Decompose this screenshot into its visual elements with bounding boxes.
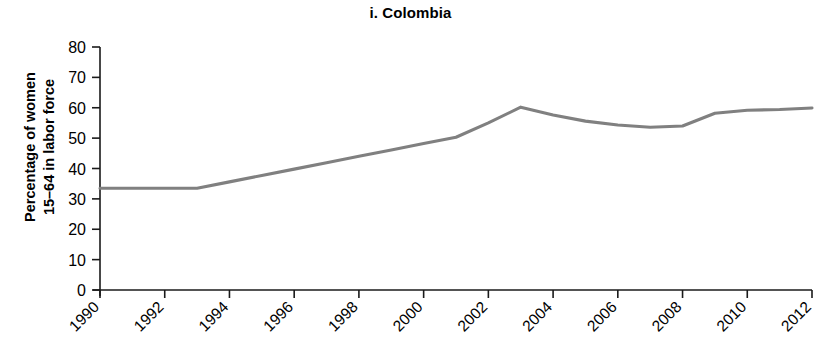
- data-series-line: [100, 107, 812, 188]
- y-tick-label: 50: [68, 130, 86, 147]
- x-tick-label: 2002: [454, 298, 490, 334]
- y-tick-label: 0: [77, 282, 86, 299]
- y-tick-label: 60: [68, 100, 86, 117]
- x-tick-label: 2008: [648, 298, 684, 334]
- chart-container: i. Colombia Percentage of women 15–64 in…: [0, 0, 821, 344]
- x-tick-label: 1992: [130, 298, 166, 334]
- y-axis-ticks: 80706050403020100: [68, 39, 100, 299]
- x-tick-label: 1996: [260, 298, 296, 334]
- y-tick-label: 70: [68, 69, 86, 86]
- x-tick-label: 2012: [778, 298, 814, 334]
- x-tick-label: 2004: [519, 298, 556, 335]
- x-tick-label: 1990: [66, 298, 103, 335]
- x-tick-label: 2010: [713, 298, 750, 335]
- y-tick-label: 10: [68, 252, 86, 269]
- y-tick-label: 30: [68, 191, 86, 208]
- y-tick-label: 80: [68, 39, 86, 56]
- x-axis-ticks: 1990199219941996199820002002200420062008…: [66, 290, 814, 335]
- plot-area: 80706050403020100 1990199219941996199820…: [0, 0, 821, 344]
- x-tick-label: 1998: [325, 298, 361, 334]
- y-tick-label: 20: [68, 221, 86, 238]
- x-tick-label: 2000: [389, 298, 426, 335]
- x-tick-label: 2006: [584, 298, 620, 334]
- y-tick-label: 40: [68, 161, 86, 178]
- x-tick-label: 1994: [195, 298, 232, 335]
